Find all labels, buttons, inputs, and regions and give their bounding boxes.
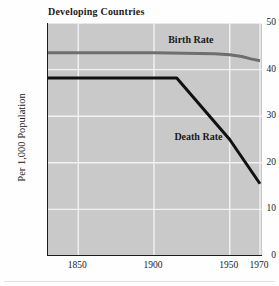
x-tick-label: 1970 [249,260,268,270]
x-tick-label: 1950 [219,260,238,270]
series-label: Death Rate [174,131,222,142]
x-tick-label: 1850 [68,260,87,270]
series-label: Birth Rate [168,34,213,45]
chart-figure: Developing Countries Per 1,000 Populatio… [0,0,279,286]
y-axis-label: Per 1,000 Population [16,73,27,203]
plot-svg [48,23,262,256]
page-rule [4,281,275,282]
chart-title: Developing Countries [48,6,145,17]
x-tick-label: 1900 [143,260,162,270]
plot-area [47,23,262,256]
